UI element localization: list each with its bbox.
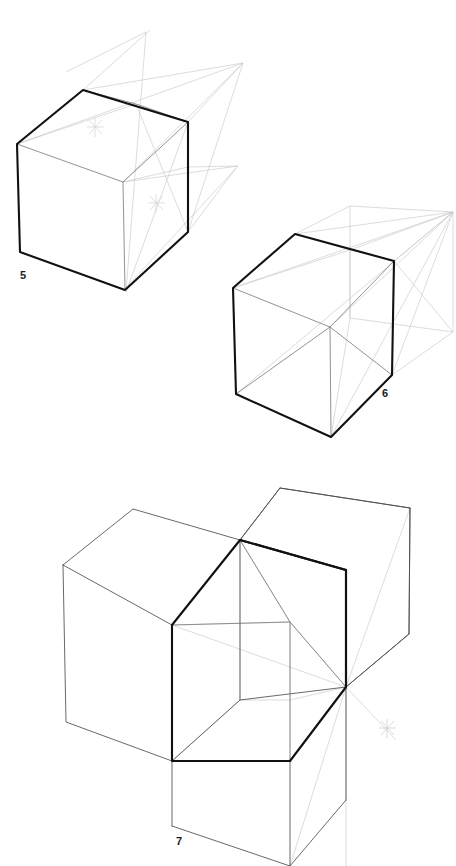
figure-7-label: 7 — [176, 835, 182, 847]
figure-6-label: 6 — [382, 387, 388, 399]
paper-background — [0, 0, 456, 866]
cube-perspective-illustration: 5 — [0, 0, 456, 866]
drawing-sheet: 5 — [0, 0, 456, 866]
figure-5-label: 5 — [20, 269, 26, 281]
